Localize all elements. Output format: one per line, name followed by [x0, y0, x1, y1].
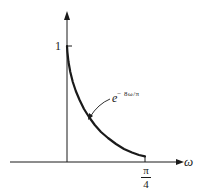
curve-label-exponent: − 8ω/π	[117, 90, 139, 98]
curve-annotation: e− 8ω/π	[112, 91, 140, 104]
x-tick-label: π 4	[139, 165, 153, 190]
chart-canvas	[0, 0, 201, 193]
x-axis-arrow-icon	[176, 159, 184, 165]
y-tick-label: 1	[55, 40, 61, 52]
x-axis-label: ω	[184, 155, 193, 168]
x-tick-denominator: 4	[139, 179, 153, 190]
x-tick-numerator: π	[139, 165, 153, 176]
y-axis-arrow-icon	[64, 11, 70, 20]
annotation-leader	[90, 99, 110, 117]
